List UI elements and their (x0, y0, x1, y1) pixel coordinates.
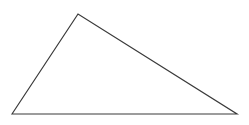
triangle-shape (12, 14, 237, 114)
figure-canvas (0, 0, 249, 125)
triangle-drawing (0, 0, 249, 125)
